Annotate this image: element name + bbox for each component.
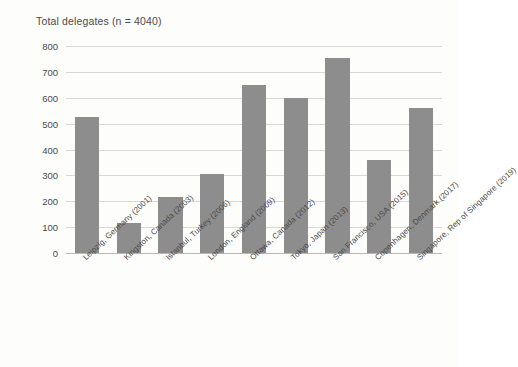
y-axis-tick-label: 400 [16,144,58,155]
bar[interactable] [75,117,99,253]
y-axis-tick-label: 500 [16,118,58,129]
y-axis-tick-label: 300 [16,170,58,181]
y-axis-tick-label: 200 [16,196,58,207]
bar-slot [66,46,108,253]
y-axis-tick-label: 800 [16,41,58,52]
y-axis: 0100200300400500600700800 [14,46,58,253]
y-axis-tick-label: 100 [16,222,58,233]
y-axis-tick-label: 600 [16,92,58,103]
chart-title: Total delegates (n = 4040) [36,15,162,27]
bar[interactable] [409,108,433,253]
x-axis-labels: Leipzig, Germany (2001)Kingston, Canada … [66,256,442,364]
y-axis-tick-label: 700 [16,66,58,77]
y-axis-tick-label: 0 [16,248,58,259]
